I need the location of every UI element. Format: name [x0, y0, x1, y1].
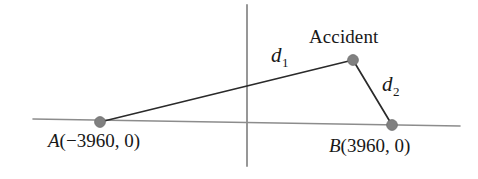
distance-d1-label: d1 — [271, 45, 288, 66]
accident-diagram-figure: Accident d1 d2 A(−3960, 0) B(3960, 0) — [0, 0, 478, 179]
accident-label: Accident — [309, 27, 378, 46]
distance-d2-label: d2 — [382, 74, 399, 95]
point-a-dot — [95, 117, 106, 128]
page-bleed-through — [22, 160, 442, 174]
distance-d1-subscript: 1 — [282, 55, 289, 70]
distance-d2-symbol: d — [382, 72, 393, 96]
point-b-coords: (3960, 0) — [341, 135, 411, 156]
accident-point-dot — [348, 55, 359, 66]
point-b-label: B(3960, 0) — [329, 136, 410, 155]
point-b-name: B — [329, 135, 341, 156]
point-b-dot — [387, 120, 398, 131]
segment-d1-line — [100, 60, 353, 122]
distance-d2-subscript: 2 — [393, 84, 400, 99]
point-a-name: A — [48, 130, 60, 151]
point-a-label: A(−3960, 0) — [48, 131, 140, 150]
point-a-coords: (−3960, 0) — [60, 130, 140, 151]
distance-d1-symbol: d — [271, 43, 282, 67]
